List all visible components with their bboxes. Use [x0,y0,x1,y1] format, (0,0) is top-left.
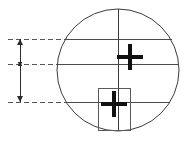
dimension-arrow-top [17,39,23,45]
drawing-canvas [0,0,184,143]
vertical-dimension-group [17,39,23,102]
crosshair-upper-icon [117,44,143,70]
technical-drawing-svg [0,0,184,143]
dimension-arrow-bottom [17,96,23,102]
crosshair-lower-icon [101,91,127,117]
leader-line-group [8,39,72,102]
